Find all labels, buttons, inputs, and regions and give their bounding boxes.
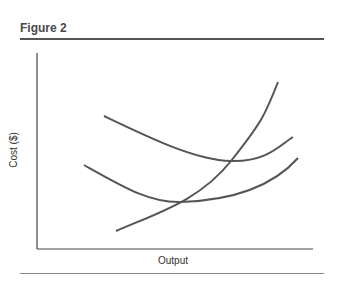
y-axis-label: Cost ($)	[8, 132, 19, 168]
bottom-rule	[20, 273, 324, 274]
x-axis-label: Output	[158, 255, 188, 266]
rising-curve	[116, 82, 278, 231]
upper-curve	[104, 116, 293, 161]
chart-plot	[0, 0, 337, 288]
